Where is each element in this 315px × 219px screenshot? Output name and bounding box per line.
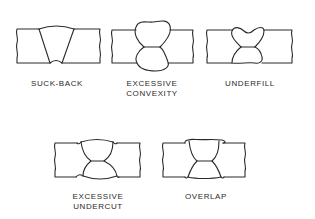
left-plate bbox=[206, 30, 232, 63]
weld-root-convex bbox=[136, 47, 168, 71]
weld-face bbox=[189, 141, 219, 161]
underfill-figure bbox=[206, 28, 292, 64]
weld-face-underfilled bbox=[232, 28, 264, 48]
weld-root bbox=[83, 161, 117, 179]
groove-wall-right bbox=[62, 29, 74, 63]
label-overlap: OVERLAP bbox=[185, 192, 227, 202]
undercut-notch-left bbox=[77, 142, 81, 144]
label-underfill: UNDERFILL bbox=[225, 79, 275, 89]
undercut-notch-bottom-left bbox=[76, 175, 83, 177]
left-plate bbox=[111, 30, 137, 63]
weld-cap bbox=[39, 26, 74, 29]
right-plate bbox=[168, 30, 194, 63]
root-overlap-right bbox=[221, 177, 224, 178]
left-plate bbox=[54, 143, 77, 177]
undercut-notch-right bbox=[113, 142, 117, 144]
weld-cap bbox=[81, 140, 113, 143]
left-plate bbox=[162, 143, 185, 177]
root-overlap-left bbox=[185, 177, 188, 178]
right-plate bbox=[223, 143, 246, 177]
weld-face-convex bbox=[135, 21, 170, 47]
weld-root bbox=[232, 47, 262, 63]
overlap-figure bbox=[162, 139, 245, 178]
weld-root bbox=[188, 161, 221, 179]
weld-defects-diagram bbox=[0, 0, 315, 219]
suck-back-figure bbox=[16, 26, 100, 63]
weld-root-concave bbox=[50, 61, 62, 64]
weld-face bbox=[81, 142, 113, 161]
label-suck-back: SUCK-BACK bbox=[31, 79, 83, 89]
label-excessive-convexity: EXCESSIVE CONVEXITY bbox=[126, 79, 178, 99]
excessive-convexity-figure bbox=[111, 21, 193, 71]
right-plate bbox=[262, 30, 293, 63]
excessive-undercut-figure bbox=[54, 140, 140, 180]
groove-wall-left bbox=[39, 29, 50, 63]
right-plate bbox=[117, 143, 141, 177]
undercut-notch-bottom-right bbox=[117, 176, 119, 177]
label-excessive-undercut: EXCESSIVE UNDERCUT bbox=[73, 192, 124, 212]
